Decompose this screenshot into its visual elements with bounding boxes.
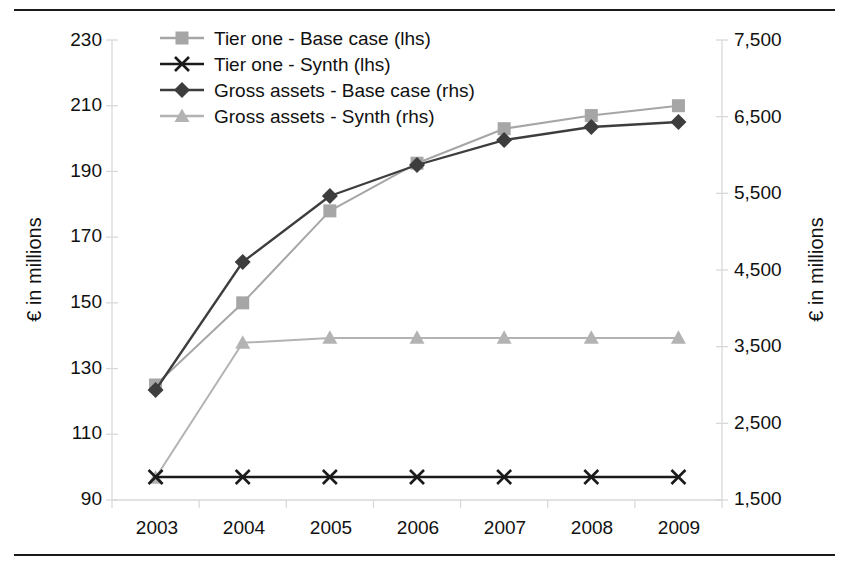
data-point-marker — [323, 204, 336, 217]
plot-area: Tier one - Base case (lhs)Tier one - Syn… — [0, 0, 850, 571]
square-marker-icon — [323, 204, 336, 217]
legend-label: Gross assets - Synth (rhs) — [214, 106, 435, 127]
diamond-marker-icon — [670, 114, 686, 130]
square-marker-icon — [176, 32, 189, 45]
diamond-marker-icon — [174, 82, 190, 98]
series-1 — [149, 99, 685, 391]
series-3 — [148, 114, 687, 398]
series-layer — [148, 99, 687, 484]
legend-item: Gross assets - Synth (rhs) — [160, 106, 435, 127]
data-point-marker — [236, 296, 249, 309]
legend-item: Tier one - Synth (lhs) — [160, 54, 391, 75]
data-point-marker — [176, 32, 189, 45]
square-marker-icon — [236, 296, 249, 309]
chart-legend: Tier one - Base case (lhs)Tier one - Syn… — [160, 28, 475, 127]
square-marker-icon — [672, 99, 685, 112]
legend-label: Tier one - Base case (lhs) — [214, 28, 431, 49]
legend-label: Tier one - Synth (lhs) — [214, 54, 391, 75]
data-point-marker — [670, 114, 686, 130]
data-point-marker — [672, 99, 685, 112]
chart-figure: € in millions € in millions 230 210 190 … — [0, 0, 850, 571]
series-4 — [148, 330, 686, 483]
series-line — [156, 338, 679, 478]
series-2 — [149, 470, 686, 484]
data-point-marker — [174, 82, 190, 98]
legend-item: Gross assets - Base case (rhs) — [160, 80, 475, 101]
legend-label: Gross assets - Base case (rhs) — [214, 80, 475, 101]
legend-item: Tier one - Base case (lhs) — [160, 28, 431, 49]
